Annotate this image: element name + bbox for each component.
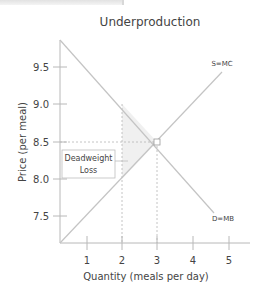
x-axis-title: Quantity (meals per day) bbox=[83, 271, 209, 282]
supply-label: S=MC bbox=[211, 60, 232, 68]
y-axis-title: Price (per meal) bbox=[17, 102, 28, 182]
demand-label: D=MB bbox=[212, 215, 234, 223]
dwl-label-line1: Deadweight bbox=[64, 154, 112, 163]
equilibrium-marker bbox=[154, 139, 160, 145]
y-tick-9.0: 9.0 bbox=[33, 99, 49, 110]
y-tick-8.5: 8.5 bbox=[33, 137, 49, 148]
chart: Underproduction Deadweight Loss S=MC D=M… bbox=[0, 0, 273, 300]
x-tick-2: 2 bbox=[119, 255, 125, 266]
x-tick-1: 1 bbox=[84, 255, 90, 266]
chart-title: Underproduction bbox=[100, 15, 201, 29]
dwl-label-line2: Loss bbox=[80, 166, 98, 175]
x-tick-5: 5 bbox=[226, 255, 232, 266]
demand-curve bbox=[60, 40, 214, 213]
x-tick-4: 4 bbox=[190, 255, 196, 266]
x-tick-3: 3 bbox=[154, 255, 160, 266]
y-tick-8.0: 8.0 bbox=[33, 174, 49, 185]
y-tick-7.5: 7.5 bbox=[33, 211, 49, 222]
y-tick-9.5: 9.5 bbox=[33, 62, 49, 73]
